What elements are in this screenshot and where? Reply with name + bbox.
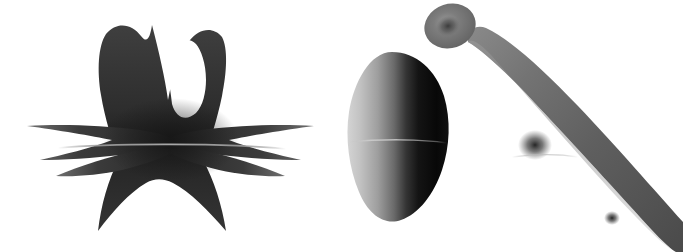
figure-cone-surface — [420, 0, 683, 252]
cone-body-path — [468, 27, 683, 252]
cone-disc — [420, 0, 482, 55]
cone-lower-spot — [604, 211, 620, 225]
star-surface-canvas — [0, 0, 341, 252]
cone-surface-canvas — [420, 0, 683, 252]
figure-star-surface — [0, 0, 341, 252]
cone-body — [468, 27, 683, 252]
star-core-shadow — [103, 98, 239, 182]
figure-panel: Star-shaped surface with two upper horns… — [0, 0, 683, 252]
cone-lit-edge — [468, 41, 672, 250]
